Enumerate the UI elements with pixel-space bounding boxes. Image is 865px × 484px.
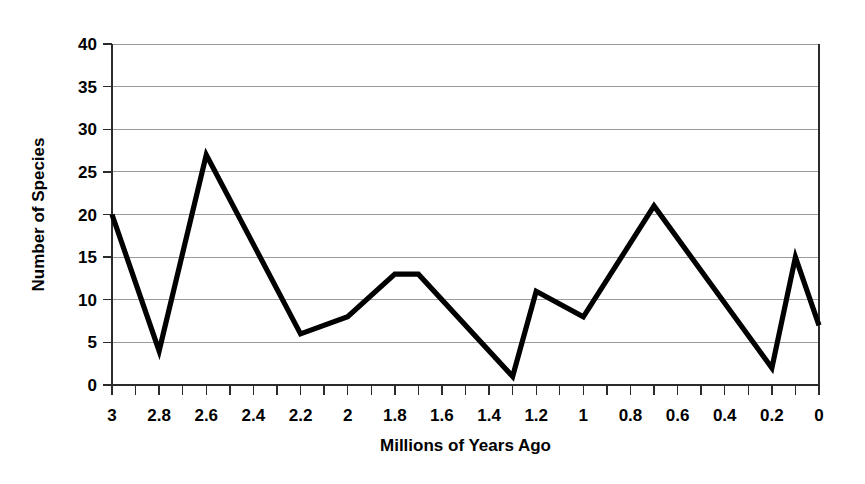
- y-axis-title: Number of Species: [29, 138, 48, 292]
- y-tick-label: 40: [78, 35, 97, 54]
- y-tick-label-group: 0510152025303540: [78, 35, 97, 395]
- x-tick-label: 1: [579, 406, 588, 425]
- x-tick-label: 1.2: [524, 406, 548, 425]
- y-tick-label: 10: [78, 291, 97, 310]
- y-tick-label: 20: [78, 206, 97, 225]
- x-tick-label: 0.8: [619, 406, 643, 425]
- x-tick-label: 0.4: [713, 406, 737, 425]
- y-tick-label: 0: [88, 376, 97, 395]
- x-tick-label: 2.2: [289, 406, 313, 425]
- x-tick-label: 3: [107, 406, 116, 425]
- x-tick-label: 2.4: [242, 406, 266, 425]
- y-tick-label: 25: [78, 163, 97, 182]
- y-tick-label: 5: [88, 333, 97, 352]
- x-tick-label: 0.2: [760, 406, 784, 425]
- x-tick-label: 1.4: [477, 406, 501, 425]
- y-tick-label: 15: [78, 248, 97, 267]
- y-tick-label: 30: [78, 120, 97, 139]
- x-tick-label: 2: [343, 406, 352, 425]
- y-tick-group: [103, 44, 112, 385]
- x-tick-label: 2.6: [194, 406, 218, 425]
- x-tick-label: 0: [814, 406, 823, 425]
- x-tick-label: 1.8: [383, 406, 407, 425]
- x-tick-group: [112, 385, 819, 395]
- gridlines-group: [112, 44, 819, 385]
- chart-canvas: 0510152025303540 32.82.62.42.221.81.61.4…: [0, 0, 865, 484]
- x-tick-label-group: 32.82.62.42.221.81.61.41.210.80.60.40.20: [107, 406, 823, 425]
- x-tick-label: 0.6: [666, 406, 690, 425]
- y-tick-label: 35: [78, 78, 97, 97]
- x-tick-label: 1.6: [430, 406, 454, 425]
- species-diversity-chart: 0510152025303540 32.82.62.42.221.81.61.4…: [0, 0, 865, 484]
- data-series-line: [112, 155, 819, 377]
- x-axis-title: Millions of Years Ago: [380, 436, 551, 455]
- x-tick-label: 2.8: [147, 406, 171, 425]
